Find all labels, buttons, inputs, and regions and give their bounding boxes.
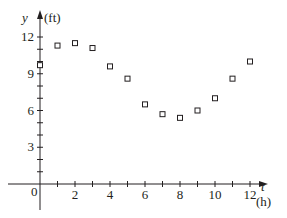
scatter-chart: 2468101236912 y (ft) t (h) 0 xyxy=(0,0,287,218)
data-point-marker xyxy=(248,59,253,64)
y-axis-unit: (ft) xyxy=(44,10,61,25)
y-tick-label: 6 xyxy=(28,103,35,118)
data-point-marker xyxy=(143,102,148,107)
data-point-marker xyxy=(125,76,130,81)
data-point-marker xyxy=(195,108,200,113)
data-point-marker xyxy=(38,63,43,68)
ticks: 2468101236912 xyxy=(21,29,257,202)
y-tick-label: 12 xyxy=(21,29,34,44)
data-point-marker xyxy=(230,76,235,81)
data-point-marker xyxy=(213,96,218,101)
x-tick-label: 6 xyxy=(142,187,149,202)
data-point-marker xyxy=(160,112,165,117)
data-point-marker xyxy=(108,64,113,69)
x-tick-label: 12 xyxy=(244,187,257,202)
y-tick-label: 3 xyxy=(28,139,35,154)
axes xyxy=(8,10,268,210)
data-point-marker xyxy=(90,46,95,51)
x-tick-label: 10 xyxy=(209,187,222,202)
x-tick-label: 4 xyxy=(107,187,114,202)
data-point-marker xyxy=(55,43,60,48)
data-point-marker xyxy=(73,41,78,46)
x-axis-label: t xyxy=(261,179,265,194)
y-axis-label: y xyxy=(20,10,28,25)
data-points xyxy=(38,41,253,121)
x-axis-unit: (h) xyxy=(256,194,271,209)
origin-label: 0 xyxy=(31,184,38,199)
x-tick-label: 8 xyxy=(177,187,184,202)
data-point-marker xyxy=(178,115,183,120)
y-tick-label: 9 xyxy=(28,66,35,81)
x-tick-label: 2 xyxy=(72,187,79,202)
